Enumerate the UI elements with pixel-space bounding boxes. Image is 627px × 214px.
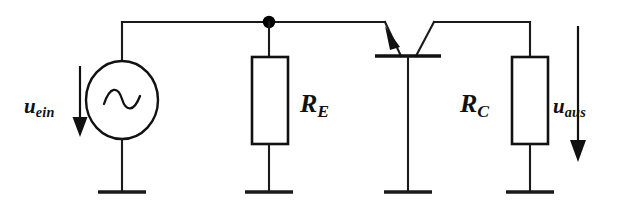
transistor-npn [375, 22, 441, 192]
transistor-emitter-arrow-icon [385, 26, 400, 50]
label-resistor-collector: RC [460, 91, 489, 117]
label-output-voltage: uaus [553, 96, 586, 117]
voltage-arrow-uaus [570, 26, 586, 162]
transistor-collector-lead [416, 22, 434, 56]
circuit-diagram: uein RE RC uaus [0, 0, 627, 214]
label-input-voltage: uein [24, 96, 55, 117]
label-resistor-emitter: RE [300, 91, 329, 117]
label-resistor-emitter-symbol: R [300, 89, 317, 118]
label-resistor-emitter-subscript: E [317, 101, 329, 121]
label-input-voltage-symbol: u [24, 94, 36, 118]
label-output-voltage-subscript: aus [565, 104, 586, 120]
label-output-voltage-symbol: u [553, 94, 565, 118]
resistor-RC-body [512, 57, 548, 144]
label-resistor-collector-subscript: C [477, 101, 489, 121]
label-input-voltage-subscript: ein [36, 104, 55, 120]
label-resistor-collector-symbol: R [460, 89, 477, 118]
resistor-RE-body [252, 57, 288, 144]
